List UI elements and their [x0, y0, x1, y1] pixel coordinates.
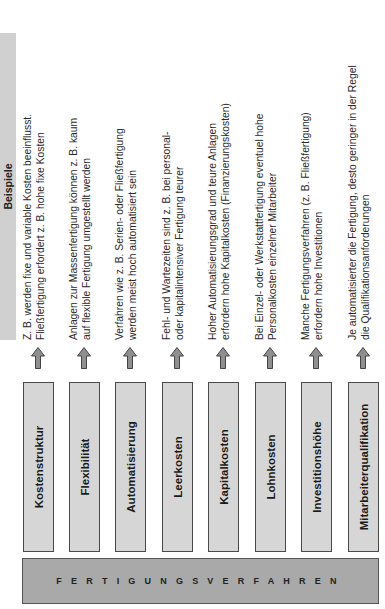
example-text-mitarbeiterqualifikation: Je automatisierter die Fertigung, desto …	[346, 10, 380, 340]
example-line-1: Bei Einzel- oder Werkstattfertigung even…	[253, 10, 266, 340]
diagram-canvas: Beispiele FERTIGUNGSVERFAHREN Kostenstru…	[0, 0, 385, 609]
factor-box-kostenstruktur: Kostenstruktur	[23, 382, 54, 552]
examples-header-label: Beispiele	[2, 163, 14, 209]
arrow-right-icon	[263, 347, 277, 369]
example-line-2: oder kapitalintensiver Fertigung teurer	[173, 10, 186, 340]
factor-box-flexibilitaet: Flexibilität	[69, 382, 100, 552]
example-text-automatisierung: Verfahren wie z. B. Serien- oder Fließfe…	[113, 10, 147, 340]
factor-label: Investitionshöhe	[311, 421, 323, 512]
base-bar-label: FERTIGUNGSVERFAHREN	[56, 576, 345, 586]
example-line-2: die Qualifikationsanforderungen	[359, 10, 372, 340]
factor-box-leerkosten: Leerkosten	[162, 382, 193, 552]
example-text-leerkosten: Fehl- und Wartezeiten sind z. B. bei per…	[160, 10, 194, 340]
factor-box-automatisierung: Automatisierung	[115, 382, 146, 552]
example-line-1: Hoher Automatisierungsgrad und teure Anl…	[206, 10, 219, 340]
factor-label: Flexibilität	[79, 439, 91, 496]
examples-header: Beispiele	[0, 33, 16, 340]
factor-label: Mitarbeiterqualifikation	[358, 404, 370, 531]
factor-label: Leerkosten	[172, 436, 184, 497]
example-text-investitionshoehe: Manche Fertigungsverfahren (z. B. Fließf…	[299, 10, 333, 340]
factor-label: Kapitalkosten	[218, 429, 230, 504]
factor-label: Lohnkosten	[265, 434, 277, 499]
factor-label: Automatisierung	[125, 421, 137, 512]
arrow-right-icon	[309, 347, 323, 369]
example-line-1: Verfahren wie z. B. Serien- oder Fließfe…	[113, 10, 126, 340]
arrow-right-icon	[170, 347, 184, 369]
arrow-right-icon	[216, 347, 230, 369]
example-line-1: Manche Fertigungsverfahren (z. B. Fließf…	[299, 10, 312, 340]
example-line-1: Fehl- und Wartezeiten sind z. B. bei per…	[160, 10, 173, 340]
example-line-2: werden meist hoch automatisiert sein	[126, 10, 139, 340]
example-line-1: Je automatisierter die Fertigung, desto …	[346, 10, 359, 340]
arrow-right-icon	[77, 347, 91, 369]
factor-box-kapitalkosten: Kapitalkosten	[208, 382, 239, 552]
arrow-right-icon	[356, 347, 370, 369]
example-line-2: erfordern hohe Investitionen	[312, 10, 325, 340]
manufacturing-process-base-bar: FERTIGUNGSVERFAHREN	[22, 558, 379, 604]
example-text-kapitalkosten: Hoher Automatisierungsgrad und teure Anl…	[206, 10, 240, 340]
factor-box-lohnkosten: Lohnkosten	[255, 382, 286, 552]
factor-label: Kostenstruktur	[33, 426, 45, 508]
factor-box-mitarbeiterqualifikation: Mitarbeiterqualifikation	[348, 382, 379, 552]
example-text-lohnkosten: Bei Einzel- oder Werkstattfertigung even…	[253, 10, 287, 340]
example-line-2: Personalkosten einzelner Mitarbeiter	[266, 10, 279, 340]
example-text-kostenstruktur: Z. B. werden fixe und variable Kosten be…	[21, 10, 55, 340]
factor-box-investitionshoehe: Investitionshöhe	[301, 382, 332, 552]
arrow-right-icon	[31, 347, 45, 369]
example-line-2: auf flexible Fertigung umgestellt werden	[80, 10, 93, 340]
example-line-1: Z. B. werden fixe und variable Kosten be…	[21, 10, 34, 340]
arrow-right-icon	[123, 347, 137, 369]
example-line-2: erfordern hohe Kapitalkosten (Finanzieru…	[219, 10, 232, 340]
example-line-1: Anlagen zur Massenfertigung können z. B.…	[67, 10, 80, 340]
example-text-flexibilitaet: Anlagen zur Massenfertigung können z. B.…	[67, 10, 101, 340]
example-line-2: Fließfertigung erfordert z. B. hohe fixe…	[34, 10, 47, 340]
